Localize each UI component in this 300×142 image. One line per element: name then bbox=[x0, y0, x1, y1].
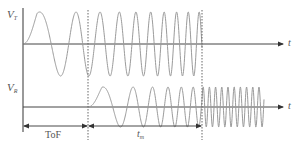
received-label-sub: R bbox=[14, 88, 18, 94]
transmitted-label-sub: T bbox=[14, 15, 17, 21]
received-axis-label: t bbox=[288, 101, 291, 111]
tm-label: tm bbox=[137, 129, 144, 140]
transmitted-signal-label: VT bbox=[7, 9, 17, 21]
tof-label: ToF bbox=[45, 130, 61, 140]
tm-label-sub: m bbox=[140, 134, 144, 140]
received-signal-label: VR bbox=[7, 82, 17, 94]
received-label-main: V bbox=[7, 81, 14, 93]
signal-timing-diagram bbox=[0, 0, 300, 142]
transmitted-axis-label: t bbox=[288, 38, 291, 48]
transmitted-label-main: V bbox=[7, 8, 14, 20]
